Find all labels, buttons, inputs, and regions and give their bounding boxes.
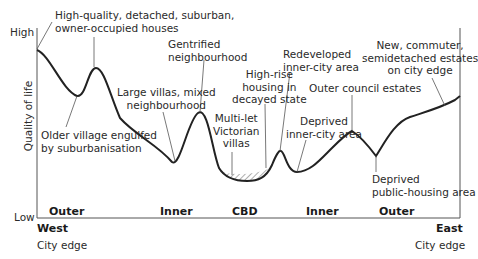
- west-city-edge-label: City edge: [37, 239, 87, 251]
- zone-cbd: CBD: [232, 205, 258, 218]
- east-label: East: [436, 222, 463, 235]
- leader-line-new-commuter: [432, 78, 445, 106]
- annotation-large-villas: Large villas, mixed neighbourhood: [117, 86, 216, 111]
- leader-line-older: [66, 96, 77, 127]
- y-axis-high-label: High: [10, 26, 34, 38]
- annotation-redeveloped: Redeveloped inner-city area: [283, 48, 359, 73]
- west-label: West: [37, 222, 68, 235]
- leader-line-hq: [37, 22, 52, 49]
- zone-inner-right: Inner: [306, 205, 339, 218]
- y-axis-title: Quality of life: [22, 76, 34, 156]
- zone-outer-left: Outer: [49, 205, 84, 218]
- annotation-outer-council: Outer council estates: [309, 82, 421, 95]
- annotation-gentrified: Gentrified neighbourhood: [168, 38, 247, 63]
- annotation-deprived-inner: Deprived inner-city area: [286, 115, 362, 140]
- y-axis-low-label: Low: [14, 211, 35, 223]
- annotation-new-commuter: New, commuter, semidetached estates on c…: [362, 39, 478, 77]
- zone-outer-right: Outer: [379, 205, 414, 218]
- annotation-older-village: Older village engulfed by suburbanisatio…: [41, 129, 157, 154]
- east-city-edge-label: City edge: [415, 239, 465, 251]
- leader-line-highrise: [265, 104, 266, 168]
- annotation-high-quality: High-quality, detached, suburban, owner-…: [55, 9, 234, 34]
- cbd-hatched-area: [219, 168, 270, 181]
- annotation-high-rise: High-rise housing in decayed state: [232, 68, 307, 106]
- zone-inner-left: Inner: [160, 205, 193, 218]
- annotation-deprived-public: Deprived public-housing area: [372, 173, 476, 198]
- leader-line-deprived-inner: [297, 140, 306, 172]
- annotation-multi-let: Multi-let Victorian villas: [213, 112, 260, 150]
